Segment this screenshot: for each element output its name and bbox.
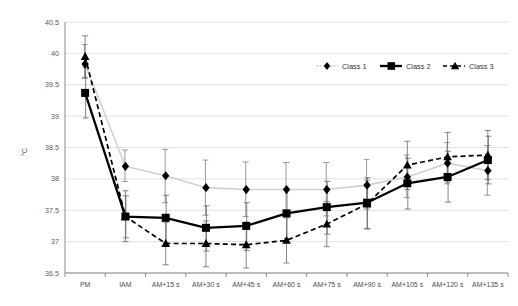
y-tick-label: 38: [51, 174, 59, 183]
series-line-class-1: [85, 64, 488, 189]
y-axis-title: °C: [20, 148, 29, 156]
x-axis-tick-labels: PMIAMAM+15 sAM+30 sAM+45 sAM+60 sAM+75 s…: [80, 281, 504, 288]
legend-item-class-2[interactable]: Class 2: [380, 62, 431, 71]
data-point-marker-diamond: [363, 181, 370, 190]
data-point-marker-triangle: [403, 161, 412, 169]
data-point-marker-diamond: [122, 162, 129, 171]
x-tick-label: AM+90 s: [353, 281, 381, 288]
data-point-marker-triangle: [483, 151, 492, 159]
chart-legend: Class 1Class 2Class 3: [310, 58, 502, 74]
x-tick-label: AM+135 s: [472, 281, 504, 288]
y-tick-label: 36.5: [45, 269, 59, 278]
data-point-marker-square: [202, 224, 210, 232]
x-tick-label: AM+45 s: [232, 281, 260, 288]
x-tick-label: AM+60 s: [273, 281, 301, 288]
x-tick-label: AM+30 s: [192, 281, 220, 288]
data-point-marker-square: [283, 209, 291, 217]
x-tick-label: PM: [80, 281, 91, 288]
x-tick-label: AM+15 s: [152, 281, 180, 288]
series-line-class-2: [85, 93, 488, 228]
x-tick-label: IAM: [119, 281, 132, 288]
y-axis-tick-labels: 36.53737.53838.53939.54040.5: [45, 18, 59, 278]
chart-canvas: 36.53737.53838.53939.54040.5 PMIAMAM+15 …: [0, 0, 518, 306]
x-tick-label: AM+120 s: [432, 281, 464, 288]
y-tick-label: 39: [51, 112, 59, 121]
data-point-marker-diamond: [484, 166, 491, 175]
y-tick-label: 38.5: [45, 143, 59, 152]
data-point-marker-triangle: [443, 153, 452, 161]
data-point-marker-diamond: [202, 183, 209, 192]
x-tick-label: AM+105 s: [391, 281, 423, 288]
temperature-line-chart: 36.53737.53838.53939.54040.5 PMIAMAM+15 …: [0, 0, 518, 306]
data-point-marker-diamond: [283, 185, 290, 194]
y-tick-label: 37: [51, 237, 59, 246]
y-tick-label: 39.5: [45, 80, 59, 89]
y-axis-label: °C: [20, 148, 29, 156]
data-point-marker-square: [444, 173, 452, 181]
data-point-marker-square: [323, 203, 331, 211]
data-point-marker-square: [403, 179, 411, 187]
data-point-marker-square: [242, 222, 250, 230]
data-point-marker-triangle: [322, 220, 331, 228]
y-tick-label: 37.5: [45, 206, 59, 215]
y-tick-label: 40: [51, 49, 59, 58]
legend-label: Class 1: [342, 62, 367, 71]
x-tick-label: AM+75 s: [313, 281, 341, 288]
legend-label: Class 3: [469, 62, 494, 71]
legend-marker-square: [388, 62, 396, 70]
data-point-marker-square: [81, 89, 89, 97]
data-point-marker-diamond: [243, 185, 250, 194]
legend-label: Class 2: [406, 62, 431, 71]
data-point-marker-diamond: [323, 185, 330, 194]
data-point-marker-square: [162, 214, 170, 222]
y-tick-label: 40.5: [45, 18, 59, 27]
